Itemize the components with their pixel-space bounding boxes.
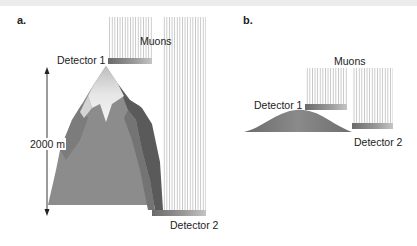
detector-1-bar-b xyxy=(305,104,347,110)
diagram-canvas xyxy=(0,0,417,246)
detector-1-bar-a xyxy=(108,58,152,64)
muon-column-2-b xyxy=(352,68,393,124)
panel-b-label: b. xyxy=(243,14,253,26)
height-label: 2000 m xyxy=(29,138,66,150)
detector-2-bar-a xyxy=(152,210,206,216)
detector-2-label-b: Detector 2 xyxy=(354,136,402,148)
detector-2-label-a: Detector 2 xyxy=(170,219,218,231)
detector-2-bar-b xyxy=(352,123,393,129)
detector-1-label-a: Detector 1 xyxy=(57,54,105,66)
muon-column-1-b xyxy=(305,68,347,104)
panel-a-label: a. xyxy=(17,14,26,26)
muons-label-a: Muons xyxy=(140,35,172,47)
panel-a xyxy=(45,17,207,216)
muons-label-b: Muons xyxy=(334,55,366,67)
detector-1-label-b: Detector 1 xyxy=(254,99,302,111)
hill xyxy=(244,110,352,132)
